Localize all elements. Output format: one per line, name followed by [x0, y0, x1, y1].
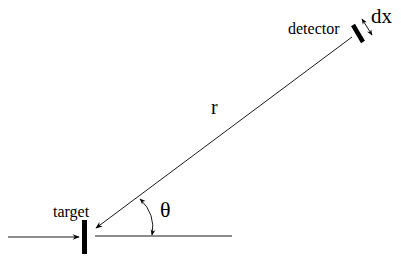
dx-label: dx — [371, 4, 393, 28]
scattered-path-arrow — [96, 37, 352, 228]
theta-arc — [140, 199, 153, 235]
theta-label: θ — [160, 197, 171, 222]
r-label: r — [211, 96, 218, 118]
target-label: target — [53, 203, 90, 221]
detector-label: detector — [288, 20, 340, 37]
target-bar — [82, 220, 87, 254]
detector-bar — [353, 25, 363, 42]
scattering-diagram: target r θ detector dx — [0, 0, 401, 266]
